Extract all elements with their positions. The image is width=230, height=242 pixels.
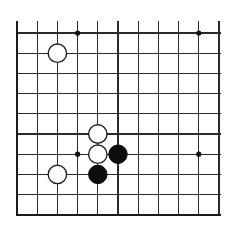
go-board-diagram <box>0 0 230 242</box>
stone-white-c4r6[interactable] <box>89 145 107 163</box>
star-point-1 <box>196 30 201 35</box>
star-point-0 <box>75 30 80 35</box>
go-board-canvas <box>0 0 230 242</box>
stone-black-c5r6[interactable] <box>109 145 127 163</box>
star-point-3 <box>196 152 201 157</box>
board-grid <box>16 21 221 216</box>
star-point-2 <box>75 152 80 157</box>
stone-black-c4r7[interactable] <box>89 165 107 183</box>
stone-white-c2r7[interactable] <box>48 165 66 183</box>
stone-white-c2r1[interactable] <box>48 44 66 62</box>
stone-white-c4r5[interactable] <box>89 125 107 143</box>
